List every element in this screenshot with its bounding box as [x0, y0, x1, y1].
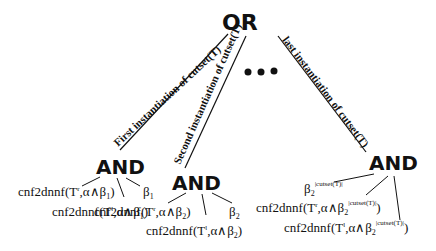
tree-diagram: OR First instantiation of cutset(T) Seco…	[0, 0, 436, 251]
edge	[202, 194, 206, 215]
expr-cnf2dnnf-l-b2: cnf2dnnf(Tl,α∧β2)	[146, 223, 242, 240]
edge-label-last: last instantiation of cutset(T)	[280, 34, 372, 150]
expr-cnf2dnnf-r-b2: cnf2dnnf(Tr,α∧β2)	[94, 204, 191, 221]
expr-cnf2dnnf-r-b2-cutset: cnf2dnnf(Tr,α∧β2|cutset(T)|)	[256, 199, 381, 217]
edge	[212, 193, 232, 203]
and-node-second: AND	[172, 171, 221, 195]
edge	[117, 178, 124, 197]
expr-beta2: β2	[229, 204, 240, 221]
diagram-canvas: OR First instantiation of cutset(T) Seco…	[0, 0, 436, 251]
edge	[126, 178, 140, 186]
expr-cnf2dnnf-l-b2-cutset: cnf2dnnf(Tl,α∧β2|cutset(T)|)	[284, 219, 408, 237]
and-node-last: AND	[369, 151, 418, 175]
edge	[366, 176, 388, 195]
ellipsis-dot	[245, 69, 252, 76]
expr-beta1: β1	[143, 184, 154, 201]
expr-beta2-cutset: β2|cutset(T)|	[304, 180, 343, 198]
edge-label-second: Second instantiation of cutset(T)	[171, 21, 245, 166]
edge	[394, 176, 400, 220]
and-node-first: AND	[96, 155, 145, 179]
expr-cnf2dnnf-r-b1: cnf2dnnf(Tr,α∧β1)	[18, 184, 115, 201]
ellipsis-dot	[258, 69, 265, 76]
ellipsis-dot	[271, 68, 278, 75]
